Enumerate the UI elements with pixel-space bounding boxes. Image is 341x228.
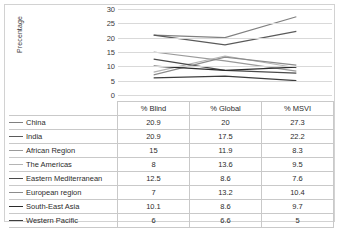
- cell-global: 8.6: [190, 172, 262, 186]
- legend-label: South-East Asia: [26, 200, 79, 213]
- series-line: [154, 17, 297, 38]
- y-tick-label: 30: [91, 5, 115, 14]
- y-tick-label: 10: [91, 62, 115, 71]
- gridline: [118, 66, 332, 67]
- gridline: [118, 38, 332, 39]
- legend-label: African Region: [26, 144, 75, 157]
- cell-msvi: 27.3: [262, 116, 334, 130]
- table-row: European region713.210.4: [9, 186, 334, 200]
- legend-label: China: [26, 116, 46, 129]
- legend-key-cell: South-East Asia: [9, 200, 118, 214]
- chart-data-table: % Blind % Global % MSVI China20.92027.3I…: [9, 101, 334, 228]
- plot-area: [118, 9, 332, 95]
- table-header-row: % Blind % Global % MSVI: [9, 102, 334, 116]
- legend-line-icon: [9, 136, 23, 137]
- table-body: China20.92027.3India20.917.522.2African …: [9, 116, 334, 228]
- cell-blind: 20.9: [118, 116, 190, 130]
- legend-label: Western Pacific: [26, 214, 78, 227]
- y-tick-label: 0: [91, 91, 115, 100]
- legend-key-cell: Western Pacific: [9, 214, 118, 228]
- table-row: African Region1511.98.3: [9, 144, 334, 158]
- legend-key-cell: European region: [9, 186, 118, 200]
- plot-region: Precentage 302520151050: [5, 5, 334, 99]
- gridline: [118, 9, 332, 10]
- legend-line-icon: [9, 220, 23, 221]
- legend-line-icon: [9, 206, 23, 207]
- cell-global: 17.5: [190, 130, 262, 144]
- column-header-msvi: % MSVI: [262, 102, 334, 116]
- legend-key-cell: The Americas: [9, 158, 118, 172]
- column-header-global: % Global: [190, 102, 262, 116]
- legend-key-cell: China: [9, 116, 118, 130]
- legend-label: India: [26, 130, 42, 143]
- cell-global: 13.6: [190, 158, 262, 172]
- cell-global: 11.9: [190, 144, 262, 158]
- cell-msvi: 8.3: [262, 144, 334, 158]
- y-tick-label: 15: [91, 48, 115, 57]
- table-row: Western Pacific66.65: [9, 214, 334, 228]
- legend-label: Eastern Mediterranean: [26, 172, 102, 185]
- cell-blind: 7: [118, 186, 190, 200]
- cell-blind: 6: [118, 214, 190, 228]
- cell-msvi: 10.4: [262, 186, 334, 200]
- table-corner-cell: [9, 102, 118, 116]
- gridline: [118, 81, 332, 82]
- table-row: South-East Asia10.18.69.7: [9, 200, 334, 214]
- legend-label: European region: [26, 186, 81, 199]
- legend-line-icon: [9, 164, 23, 165]
- table-row: The Americas813.69.5: [9, 158, 334, 172]
- cell-blind: 20.9: [118, 130, 190, 144]
- cell-blind: 10.1: [118, 200, 190, 214]
- legend-key-cell: India: [9, 130, 118, 144]
- cell-global: 8.6: [190, 200, 262, 214]
- cell-blind: 8: [118, 158, 190, 172]
- gridline: [118, 95, 332, 96]
- chart-figure: Precentage 302520151050 % Blind % Global…: [4, 4, 335, 222]
- table-row: India20.917.522.2: [9, 130, 334, 144]
- legend-line-icon: [9, 192, 23, 193]
- legend-line-icon: [9, 178, 23, 179]
- table-row: Eastern Mediterranean12.58.67.6: [9, 172, 334, 186]
- gridline: [118, 52, 332, 53]
- cell-global: 20: [190, 116, 262, 130]
- cell-global: 6.6: [190, 214, 262, 228]
- cell-msvi: 9.5: [262, 158, 334, 172]
- y-tick-label: 25: [91, 19, 115, 28]
- y-tick-label: 20: [91, 33, 115, 42]
- cell-blind: 15: [118, 144, 190, 158]
- cell-blind: 12.5: [118, 172, 190, 186]
- y-axis-tick-labels: 302520151050: [91, 9, 115, 95]
- cell-msvi: 5: [262, 214, 334, 228]
- legend-key-cell: Eastern Mediterranean: [9, 172, 118, 186]
- y-tick-label: 5: [91, 76, 115, 85]
- table-row: China20.92027.3: [9, 116, 334, 130]
- y-axis-title: Precentage: [16, 0, 23, 70]
- column-header-blind: % Blind: [118, 102, 190, 116]
- gridline: [118, 23, 332, 24]
- legend-line-icon: [9, 122, 23, 123]
- cell-msvi: 7.6: [262, 172, 334, 186]
- cell-msvi: 9.7: [262, 200, 334, 214]
- legend-key-cell: African Region: [9, 144, 118, 158]
- legend-label: The Americas: [26, 158, 72, 171]
- cell-global: 13.2: [190, 186, 262, 200]
- legend-line-icon: [9, 150, 23, 151]
- cell-msvi: 22.2: [262, 130, 334, 144]
